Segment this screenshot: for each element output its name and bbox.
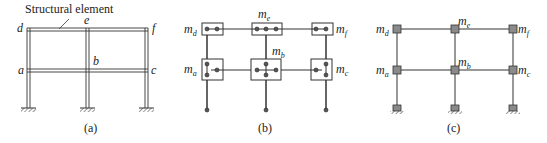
annotation-structural-element: Structural element (25, 2, 114, 16)
mass-label-e: me (258, 7, 271, 23)
caption-b: (b) (258, 121, 272, 135)
node-a (393, 66, 401, 74)
annotation-leader (59, 19, 69, 29)
mass-label-d: md (184, 22, 198, 38)
support-node-left (393, 105, 401, 111)
node-label-f: f (152, 21, 157, 35)
fixed-support-left (21, 108, 36, 112)
panel-b-lumped-mass: md me mf ma mb mc (b) (184, 7, 349, 135)
panel-c-simplified: md me mf ma mb mc (c) (376, 14, 531, 135)
caption-a: (a) (84, 121, 97, 135)
fixed-support-middle (80, 108, 95, 112)
support-node-right (509, 105, 517, 111)
node-label-c: c (151, 63, 157, 77)
beam-top (27, 28, 148, 31)
mass-label-c-c: mc (518, 63, 531, 79)
node-label-b: b (93, 54, 99, 68)
node-label-e: e (84, 13, 90, 27)
mass-label-f-c: mf (518, 22, 531, 38)
fixed-support-right (139, 108, 154, 112)
mass-label-f: mf (336, 22, 349, 38)
mass-label-b-c: mb (458, 55, 471, 71)
caption-c: (c) (447, 121, 460, 135)
node-label-d: d (17, 21, 24, 35)
column-left (27, 28, 30, 108)
node-f (509, 25, 517, 33)
mass-label-b: mb (272, 44, 285, 60)
column-middle (86, 28, 89, 108)
mass-label-e-c: me (458, 14, 471, 30)
node-d (393, 25, 401, 33)
node-label-a: a (18, 63, 24, 77)
panel-a-frame: Structural element d e f a b c (a) (17, 2, 157, 135)
structural-model-figure: Structural element d e f a b c (a) (0, 0, 547, 143)
node-c (509, 66, 517, 74)
support-node-middle (451, 105, 459, 111)
mass-label-c: mc (336, 62, 349, 78)
supports-c (390, 111, 520, 114)
mass-label-d-c: md (376, 22, 390, 38)
mass-label-a: ma (184, 62, 197, 78)
beam-middle (27, 69, 148, 72)
mass-label-a-c: ma (376, 63, 389, 79)
column-right (145, 28, 148, 108)
